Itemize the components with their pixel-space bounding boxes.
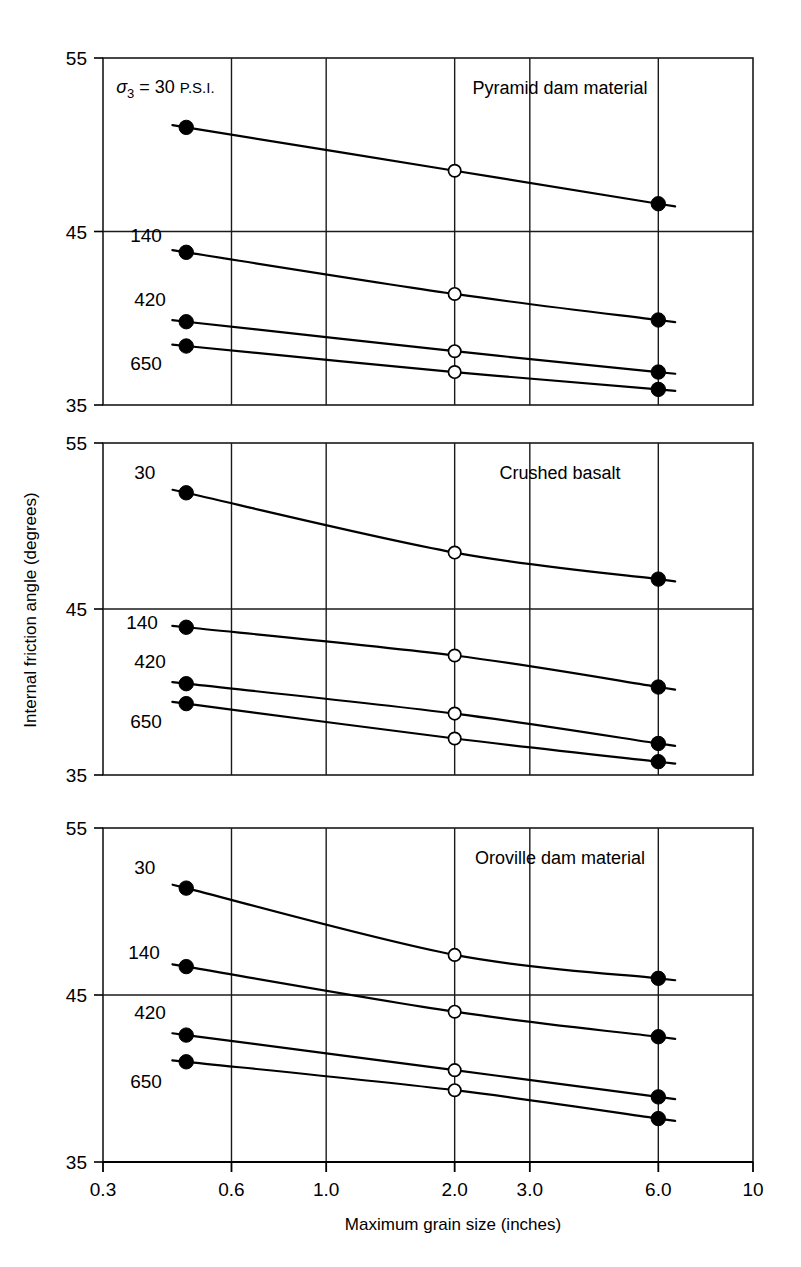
curve-label-crushed-basalt-650: 650 xyxy=(130,711,162,732)
curve-label-pyramid-dam-material-420: 420 xyxy=(134,289,166,310)
x-tick-label-6: 6.0 xyxy=(645,1179,671,1200)
y-tick-label-45: 45 xyxy=(66,985,87,1006)
series-crushed-basalt-420 xyxy=(172,677,675,751)
panel-title-crushed-basalt: Crushed basalt xyxy=(499,463,620,483)
y-tick-label-35: 35 xyxy=(66,395,87,416)
curve-line xyxy=(186,346,658,389)
filled-circle-marker xyxy=(651,971,665,985)
y-tick-label-55: 55 xyxy=(66,48,87,69)
curve-line xyxy=(186,127,658,203)
filled-circle-marker xyxy=(179,881,193,895)
filled-circle-marker xyxy=(651,1030,665,1044)
filled-circle-marker xyxy=(179,620,193,634)
open-circle-marker xyxy=(448,1064,460,1076)
x-axis: 0.30.61.02.03.06.010Maximum grain size (… xyxy=(90,1162,764,1234)
filled-circle-marker xyxy=(651,365,665,379)
curve-label-oroville-dam-material-420: 420 xyxy=(134,1002,166,1023)
curve-line xyxy=(186,493,658,579)
open-circle-marker xyxy=(448,707,460,719)
curve-label-pyramid-dam-material-650: 650 xyxy=(130,353,162,374)
filled-circle-marker xyxy=(179,696,193,710)
curve-line xyxy=(186,967,658,1037)
x-tick-label-10: 10 xyxy=(742,1179,763,1200)
series-oroville-dam-material-30 xyxy=(173,881,676,986)
open-circle-marker xyxy=(448,165,460,177)
curve-line xyxy=(186,1062,658,1119)
panel-title-oroville-dam-material: Oroville dam material xyxy=(475,848,645,868)
filled-circle-marker xyxy=(651,736,665,750)
filled-circle-marker xyxy=(651,313,665,327)
filled-circle-marker xyxy=(179,315,193,329)
curve-label-crushed-basalt-140: 140 xyxy=(126,612,158,633)
filled-circle-marker xyxy=(179,959,193,973)
x-tick-label-0.3: 0.3 xyxy=(90,1179,116,1200)
series-oroville-dam-material-420 xyxy=(172,1028,675,1104)
sigma-pressure-label: σ3 = 30 P.S.I. xyxy=(116,77,214,101)
x-tick-label-3: 3.0 xyxy=(517,1179,543,1200)
open-circle-marker xyxy=(448,1084,460,1096)
y-tick-label-55: 55 xyxy=(66,818,87,839)
filled-circle-marker xyxy=(179,1055,193,1069)
y-tick-label-45: 45 xyxy=(66,222,87,243)
filled-circle-marker xyxy=(179,339,193,353)
y-tick-label-55: 55 xyxy=(66,433,87,454)
open-circle-marker xyxy=(448,1006,460,1018)
filled-circle-marker xyxy=(651,197,665,211)
curve-line xyxy=(186,1035,658,1097)
filled-circle-marker xyxy=(651,572,665,586)
filled-circle-marker xyxy=(179,486,193,500)
filled-circle-marker xyxy=(179,120,193,134)
y-tick-label-35: 35 xyxy=(66,765,87,786)
filled-circle-marker xyxy=(651,382,665,396)
curve-label-oroville-dam-material-30: 30 xyxy=(134,857,155,878)
open-circle-marker xyxy=(448,949,460,961)
open-circle-marker xyxy=(448,546,460,558)
y-axis-title: Internal friction angle (degrees) xyxy=(21,492,40,727)
curve-line xyxy=(186,322,658,372)
open-circle-marker xyxy=(448,345,460,357)
x-tick-label-1: 1.0 xyxy=(313,1179,339,1200)
x-axis-title: Maximum grain size (inches) xyxy=(345,1215,561,1234)
filled-circle-marker xyxy=(179,245,193,259)
series-crushed-basalt-140 xyxy=(172,620,675,694)
y-tick-label-45: 45 xyxy=(66,599,87,620)
filled-circle-marker xyxy=(651,1090,665,1104)
y-tick-label-35: 35 xyxy=(66,1152,87,1173)
series-crushed-basalt-30 xyxy=(173,486,676,587)
open-circle-marker xyxy=(448,288,460,300)
curve-label-pyramid-dam-material-140: 140 xyxy=(130,225,162,246)
x-tick-label-2: 2.0 xyxy=(441,1179,467,1200)
curve-label-oroville-dam-material-650: 650 xyxy=(130,1071,162,1092)
curve-label-crushed-basalt-30: 30 xyxy=(134,462,155,483)
curve-line xyxy=(186,888,658,978)
filled-circle-marker xyxy=(651,755,665,769)
series-pyramid-dam-material-140 xyxy=(172,245,675,327)
filled-circle-marker xyxy=(651,680,665,694)
curve-label-crushed-basalt-420: 420 xyxy=(134,651,166,672)
curve-label-oroville-dam-material-140: 140 xyxy=(128,942,160,963)
filled-circle-marker xyxy=(179,677,193,691)
curve-line xyxy=(186,252,658,320)
figure-container: 354555Pyramid dam material140420650σ3 = … xyxy=(0,0,801,1267)
series-pyramid-dam-material-30 xyxy=(172,120,675,211)
open-circle-marker xyxy=(448,649,460,661)
series-crushed-basalt-650 xyxy=(172,696,675,769)
open-circle-marker xyxy=(448,366,460,378)
panel-oroville-dam-material: 354555Oroville dam material30140420650 xyxy=(66,818,753,1173)
multi-panel-line-chart: 354555Pyramid dam material140420650σ3 = … xyxy=(0,0,801,1267)
filled-circle-marker xyxy=(179,1028,193,1042)
x-tick-label-0.6: 0.6 xyxy=(218,1179,244,1200)
panel-crushed-basalt: 354555Crushed basalt30140420650 xyxy=(66,433,753,786)
panel-pyramid-dam-material: 354555Pyramid dam material140420650 xyxy=(66,48,753,416)
filled-circle-marker xyxy=(651,1111,665,1125)
open-circle-marker xyxy=(448,732,460,744)
panel-title-pyramid-dam-material: Pyramid dam material xyxy=(472,78,647,98)
curve-line xyxy=(186,627,658,687)
